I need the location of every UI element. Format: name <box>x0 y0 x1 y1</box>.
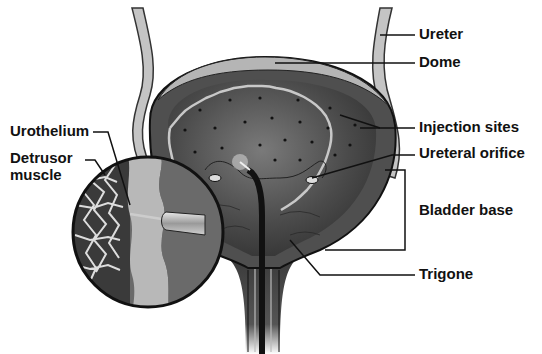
label-ureter: Ureter <box>419 26 463 43</box>
label-detrusor-line2: muscle <box>10 167 73 184</box>
bladder-diagram: Ureter Dome Injection sites Ureteral ori… <box>0 0 542 354</box>
diagram-svg <box>0 0 542 354</box>
label-trigone: Trigone <box>419 266 473 283</box>
label-detrusor-muscle: Detrusor muscle <box>10 150 73 183</box>
label-injection-sites: Injection sites <box>419 119 519 136</box>
label-dome: Dome <box>419 54 461 71</box>
label-detrusor-line1: Detrusor <box>10 150 73 167</box>
left-ureteral-orifice <box>209 175 221 182</box>
label-bladder-base: Bladder base <box>419 202 513 219</box>
label-urothelium: Urothelium <box>10 123 89 140</box>
label-ureteral-orifice: Ureteral orifice <box>419 145 525 162</box>
